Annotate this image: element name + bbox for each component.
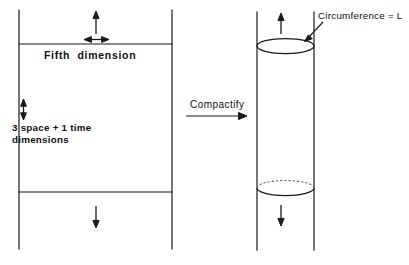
cylinder-bottom-ellipse-front-arc bbox=[257, 188, 314, 196]
compactify-label: Compactify bbox=[190, 99, 245, 111]
fifth-dimension-label: Fifth dimension bbox=[44, 49, 136, 62]
cylinder-top-up-arrow bbox=[278, 13, 284, 34]
cylinder-bottom-ellipse-hidden-arc bbox=[257, 181, 314, 189]
cylinder-body bbox=[257, 12, 314, 250]
fifth-dimension-extent-arrow bbox=[84, 37, 109, 43]
cylinder-bottom-down-arrow bbox=[278, 205, 284, 226]
cylinder-bottom-ellipse bbox=[257, 181, 314, 196]
circumference-label: Circumference = L bbox=[318, 10, 403, 22]
four-dimension-extent-arrow bbox=[21, 99, 27, 120]
slab-top-up-arrow bbox=[93, 11, 99, 34]
three-space-one-time-label: 3 space + 1 time dimensions bbox=[12, 122, 91, 146]
slab-bottom-down-arrow bbox=[93, 206, 99, 228]
compactification-figure: Fifth dimension 3 space + 1 time dimensi… bbox=[0, 0, 409, 265]
compactify-arrow bbox=[186, 112, 247, 119]
